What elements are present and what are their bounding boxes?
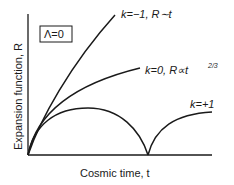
curve-closed-k-plus-1-cycle-2 — [148, 112, 212, 155]
curve-flat-k-0 — [28, 68, 140, 155]
lambda-label: Λ=0 — [44, 28, 64, 40]
x-axis-label: Cosmic time, t — [80, 167, 150, 179]
label-k-0: k=0, R∝t — [145, 64, 189, 76]
label-k-plus-1: k=+1 — [190, 98, 214, 110]
label-k-minus-1: k=−1, R∼t — [121, 8, 173, 20]
y-axis-label: Expansion function, R — [12, 43, 24, 150]
label-k-0-exponent: 2/3 — [207, 62, 218, 69]
expansion-diagram: Λ=0 k=−1, R∼t k=0, R∝t 2/3 k=+1 Cosmic t… — [0, 0, 234, 185]
